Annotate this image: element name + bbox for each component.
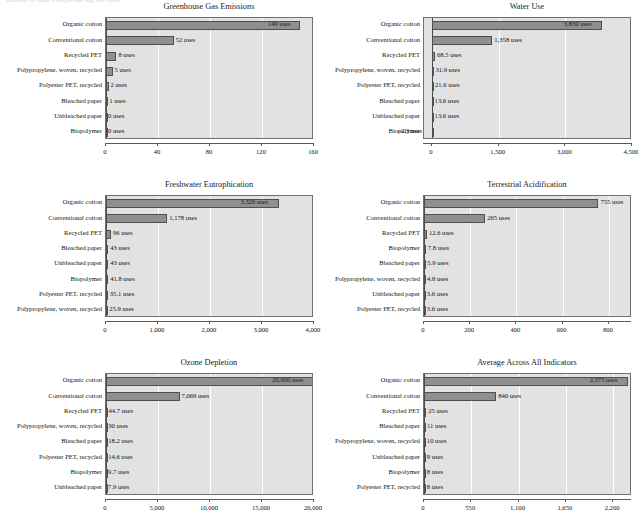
category-label: Organic cotton [318, 377, 420, 384]
x-axis-tick-label: 4,500 [624, 148, 639, 155]
x-axis-tick [515, 321, 516, 324]
value-label: 11 uses [427, 423, 446, 430]
x-axis-tick [612, 499, 613, 502]
grid-line [613, 374, 614, 494]
value-label: 4.8 uses [427, 276, 448, 283]
bar [106, 291, 108, 300]
bar [432, 128, 434, 137]
x-axis-tick [423, 499, 424, 502]
value-label: 5 uses [115, 67, 131, 74]
value-label: 43 uses [110, 245, 130, 252]
bar [432, 52, 435, 61]
category-label: Conventional cotton [0, 393, 102, 400]
x-axis-tick [518, 499, 519, 502]
category-label: Polypropylene, woven, recycled [0, 306, 102, 313]
category-label: Recycled PET [0, 230, 102, 237]
value-label: 8 uses [427, 484, 443, 491]
chart-panel: Water UseOrganic cottonConventional cott… [318, 2, 639, 160]
value-label: 1,178 uses [169, 215, 197, 222]
x-axis-tick [423, 321, 424, 324]
category-label: Unbleached paper [0, 484, 102, 491]
chart-panel: Freshwater EutrophicationOrganic cottonC… [0, 180, 321, 338]
x-axis-tick-label: 160 [308, 148, 318, 155]
x-axis-tick [313, 499, 314, 502]
x-axis-tick-label: 15,000 [252, 504, 270, 511]
bar [106, 97, 108, 106]
category-label: Conventional cotton [318, 37, 420, 44]
category-label: Conventional cotton [0, 37, 102, 44]
category-label: Biopolymer [318, 469, 420, 476]
category-label: Unbleached paper [0, 113, 102, 120]
value-label: 96 uses [113, 230, 133, 237]
x-axis-tick-label: 40 [154, 148, 161, 155]
category-label: Recycled PET [318, 408, 420, 415]
x-axis-tick [565, 499, 566, 502]
plot-area [105, 195, 313, 317]
category-label: Unbleached paper [318, 291, 420, 298]
x-axis-tick-label: 0 [421, 504, 424, 511]
x-axis-tick [562, 321, 563, 324]
category-label: Recycled PET [318, 230, 420, 237]
category-label: Recycled PET [0, 52, 102, 59]
x-axis-tick [313, 321, 314, 324]
category-label: Polyester PET, recycled [318, 306, 420, 313]
category-label: Organic cotton [0, 21, 102, 28]
bar [106, 230, 111, 239]
category-label: Unbleached paper [318, 454, 420, 461]
category-label: Unbleached paper [0, 260, 102, 267]
value-label: 3.6 uses [427, 291, 448, 298]
plot-area [423, 195, 631, 317]
x-axis-tick-label: 2,200 [605, 504, 620, 511]
bar [106, 306, 108, 315]
value-label: 10 uses [427, 438, 447, 445]
chart-title: Average Across All Indicators [423, 358, 631, 367]
x-axis-tick [469, 321, 470, 324]
value-label: 2,375 uses [590, 377, 618, 384]
chart-title: Terrestrial Acidification [423, 180, 631, 189]
x-axis-tick-label: 2,000 [202, 326, 217, 333]
chart-title: Greenhouse Gas Emissions [105, 2, 313, 11]
category-label: Polypropylene, woven, recycled [318, 438, 420, 445]
bar [106, 260, 108, 269]
bar [424, 245, 426, 254]
value-label: 7.9 uses [108, 484, 129, 491]
x-axis-tick-label: 800 [603, 326, 613, 333]
category-label: Polyester PET, recycled [0, 291, 102, 298]
category-label: Bleached paper [318, 423, 420, 430]
value-label: 8 uses [427, 469, 443, 476]
x-axis-tick [564, 143, 565, 146]
bar [432, 36, 492, 45]
bar [424, 392, 496, 401]
value-label: 1,358 uses [494, 37, 522, 44]
x-axis-tick-label: 5,000 [150, 504, 165, 511]
value-label: –2.3 uses [398, 128, 423, 135]
grid-line [210, 196, 211, 316]
grid-line [262, 18, 263, 138]
chart-panel: Ozone DepletionOrganic cottonConventiona… [0, 358, 321, 516]
value-label: 44.7 uses [108, 408, 133, 415]
x-axis-tick-label: 1,500 [490, 148, 505, 155]
grid-line [565, 18, 566, 138]
bar [424, 484, 426, 493]
x-axis-tick [313, 143, 314, 146]
x-axis-tick-label: 80 [206, 148, 213, 155]
x-axis-tick [608, 321, 609, 324]
bar [424, 306, 426, 315]
bar [424, 275, 426, 284]
category-label: Unbleached paper [318, 113, 420, 120]
value-label: 18.2 uses [108, 438, 133, 445]
value-label: 265 uses [487, 215, 510, 222]
value-label: 3.6 uses [427, 306, 448, 313]
category-label: Bleached paper [318, 98, 420, 105]
category-label: Organic cotton [0, 377, 102, 384]
x-axis-tick-label: 3,000 [557, 148, 572, 155]
bar [106, 275, 108, 284]
x-axis-tick-label: 120 [256, 148, 266, 155]
value-label: 0 uses [108, 113, 124, 120]
grid-line [516, 196, 517, 316]
value-label: 21.6 uses [435, 82, 460, 89]
chart-panel: Terrestrial AcidificationOrganic cottonC… [318, 180, 639, 338]
category-label: Bleached paper [0, 438, 102, 445]
bar [424, 214, 485, 223]
plot-area [105, 17, 313, 139]
